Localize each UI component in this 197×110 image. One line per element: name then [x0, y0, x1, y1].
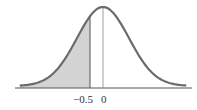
- shaded-area: [20, 16, 90, 88]
- tick-label-0: 0: [101, 93, 107, 105]
- normal-curve-chart: [0, 0, 197, 110]
- tick-label-neg-0.5: −0.5: [73, 93, 93, 105]
